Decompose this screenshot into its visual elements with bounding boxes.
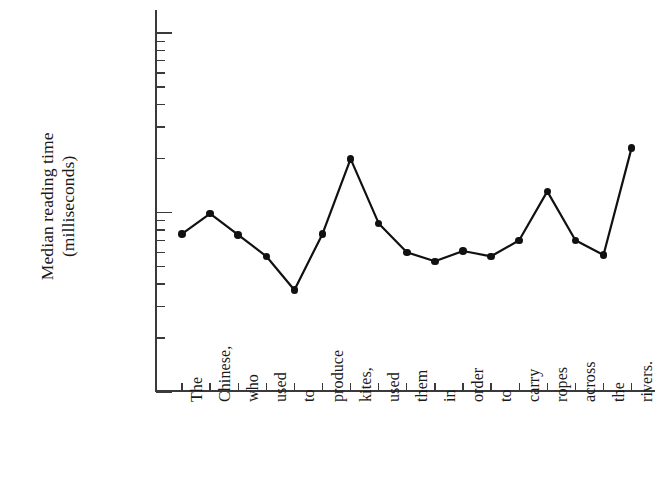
data-line [155,10,655,392]
data-point [234,231,242,239]
y-axis-title: Median reading time (milliseconds) [37,56,80,356]
data-point [178,230,186,238]
plot-area: 10 0001000100 TheChinese,whousedtoproduc… [155,10,655,392]
data-point [291,286,299,294]
data-point [319,230,327,238]
data-point [487,253,495,261]
data-point [515,237,523,245]
data-point [628,144,636,152]
data-point [431,258,439,266]
data-point [347,155,355,163]
data-point [572,237,580,245]
data-point [263,253,271,261]
data-point [459,247,467,255]
y-axis-title-line1: Median reading time [37,56,58,356]
data-point [600,251,608,259]
y-axis-title-line2: (milliseconds) [58,56,79,356]
data-point [403,249,411,257]
chart-figure: Median reading time (milliseconds) 10 00… [0,0,658,504]
